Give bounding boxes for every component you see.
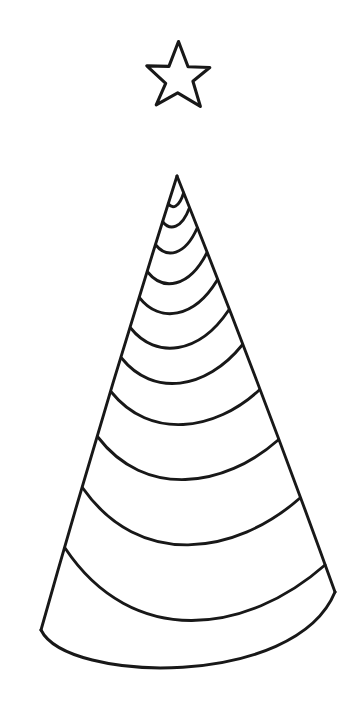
cone-group <box>41 176 335 668</box>
garland-arc-8 <box>111 390 259 425</box>
garland-arc-11 <box>65 548 325 620</box>
garland-arc-9 <box>98 437 278 480</box>
garland-arc-6 <box>131 310 229 348</box>
garland-arc-7 <box>122 345 243 384</box>
drawing-canvas <box>0 0 353 721</box>
garland-arc-4 <box>148 253 207 284</box>
garland-arc-3 <box>156 228 197 253</box>
garland-arc-10 <box>83 488 300 545</box>
cone-base-arc <box>41 592 335 668</box>
garland-arc-5 <box>140 280 218 314</box>
christmas-tree-illustration <box>0 0 353 721</box>
cone-right-edge <box>177 176 335 592</box>
star-group <box>147 42 210 107</box>
spiral-garland-group <box>65 193 325 620</box>
tree-topper-star-icon <box>147 42 210 107</box>
